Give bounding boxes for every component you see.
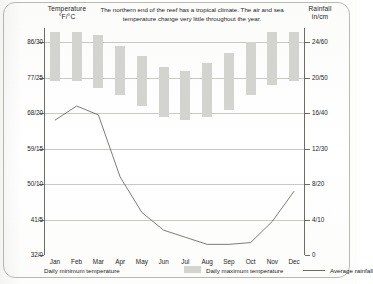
legend-max-swatch	[184, 266, 201, 273]
month-label: Nov	[260, 258, 284, 265]
right-axis-title-line1: Rainfall	[292, 5, 348, 13]
month-label: Mar	[86, 258, 110, 265]
right-axis-tick-label: 12/30	[312, 145, 328, 152]
tick-mark	[305, 149, 310, 150]
left-axis-tick-label: 86/30	[27, 38, 43, 45]
legend-rain-label: Average rainfall	[330, 267, 373, 274]
tick-mark	[305, 42, 310, 43]
right-axis-tick-label: 24/60	[312, 38, 328, 45]
tick-mark	[305, 184, 310, 185]
left-axis-tick-label: 50/10	[27, 180, 43, 187]
left-axis-tick-label: 32/0	[31, 251, 43, 258]
left-axis-title-line1: Temperature	[36, 5, 98, 13]
right-axis-tick-label: 8/20	[312, 180, 324, 187]
month-label: Jan	[43, 258, 67, 265]
tick-mark	[305, 113, 310, 114]
right-axis-tick-label: 4/10	[312, 216, 324, 223]
month-label: Jun	[152, 258, 176, 265]
left-axis-tick-label: 41/5	[31, 216, 43, 223]
right-axis-title: Rainfall in/cm	[292, 5, 348, 21]
chart-legend: Daily minimum temperature Daily maximum …	[34, 266, 334, 278]
tick-mark	[305, 255, 310, 256]
month-label: Oct	[239, 258, 263, 265]
right-axis-tick-label: 16/40	[312, 109, 328, 116]
month-label: May	[130, 258, 154, 265]
right-axis-tick-label: 0	[312, 251, 316, 258]
right-axis-tick-label: 20/50	[312, 74, 328, 81]
left-axis-tick-label: 68/20	[27, 109, 43, 116]
legend-max-label: Daily maximum temperature	[206, 267, 283, 274]
left-axis-tick-label: 59/15	[27, 145, 43, 152]
legend-min-label: Daily minimum temperature	[44, 267, 120, 274]
legend-rain-line	[303, 270, 325, 271]
month-label: Dec	[282, 258, 306, 265]
month-label: Aug	[195, 258, 219, 265]
month-label: Feb	[65, 258, 89, 265]
right-axis-title-line2: in/cm	[292, 13, 348, 21]
plot-area: 86/3077/2568/2059/1550/1041/532/0 24/602…	[44, 28, 305, 254]
left-axis-tick-label: 77/25	[27, 74, 43, 81]
month-label: Apr	[108, 258, 132, 265]
chart-caption: The northern end of the reef has a tropi…	[96, 6, 288, 23]
month-label: Jul	[173, 258, 197, 265]
left-axis-title: Temperature °F/°C	[36, 5, 98, 21]
tick-mark	[305, 220, 310, 221]
tick-mark	[305, 78, 310, 79]
rainfall-line	[44, 28, 305, 255]
left-axis-title-line2: °F/°C	[36, 13, 98, 21]
month-label: Sep	[217, 258, 241, 265]
